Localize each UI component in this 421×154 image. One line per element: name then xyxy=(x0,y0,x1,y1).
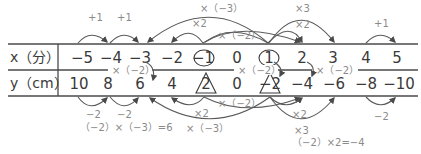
label-plus1: +1 xyxy=(117,12,132,23)
x-cell: −5 xyxy=(71,49,93,67)
label-times2: ×2 xyxy=(292,109,307,120)
y-header: y（cm） xyxy=(10,75,68,91)
x-header: x（分） xyxy=(10,49,60,65)
y-cell: −2 xyxy=(259,75,281,93)
y-cell: 4 xyxy=(167,75,177,93)
y-cell: −4 xyxy=(291,75,313,93)
label-plus1: +1 xyxy=(88,12,103,23)
y-row: 10 8 6 4 2 0 −2 −4 −6 −8 −10 xyxy=(69,75,414,93)
proportion-table-diagram: x（分） y（cm） −5 −4 −3 −2 −1 0 1 2 3 4 5 10… xyxy=(0,0,421,154)
label-minus2: −2 xyxy=(86,109,101,120)
x-cell: 5 xyxy=(392,49,402,67)
label-minus2: −2 xyxy=(374,111,389,122)
x-cell: 2 xyxy=(297,49,307,67)
y-cell: 10 xyxy=(69,75,88,93)
y-cell: 2 xyxy=(201,75,211,93)
calc-right: （−2）×2=−4 xyxy=(292,137,365,148)
label-times-neg2-mid: ×（−2） xyxy=(112,65,155,76)
y-cell: 6 xyxy=(135,75,145,93)
label-times3: ×3 xyxy=(294,125,309,136)
y-cell: −6 xyxy=(323,75,345,93)
x-cell: 4 xyxy=(361,49,371,67)
y-cell: 8 xyxy=(103,75,113,93)
label-times2: ×2 xyxy=(295,19,310,30)
x-cell: −2 xyxy=(161,49,183,67)
label-times-neg2-mid: ×（−2） xyxy=(238,65,281,76)
label-times-neg3: ×（−3） xyxy=(186,123,229,134)
label-times-neg2: ×（−2） xyxy=(218,98,261,109)
label-times-neg2: ×（−2） xyxy=(218,30,261,41)
label-times2: ×2 xyxy=(192,18,207,29)
calc-left: （−2）×（−3）=6 xyxy=(80,122,173,133)
label-times3: ×3 xyxy=(295,3,310,14)
label-minus2: −2 xyxy=(117,109,132,120)
label-times-neg3: ×（−3） xyxy=(200,3,243,14)
y-cell: −8 xyxy=(355,75,377,93)
label-times2: ×2 xyxy=(194,108,209,119)
y-cell: −10 xyxy=(383,75,415,93)
label-plus1: +1 xyxy=(374,18,389,29)
label-times-neg2-mid: ×（−2） xyxy=(316,65,359,76)
y-cell: 0 xyxy=(232,75,242,93)
